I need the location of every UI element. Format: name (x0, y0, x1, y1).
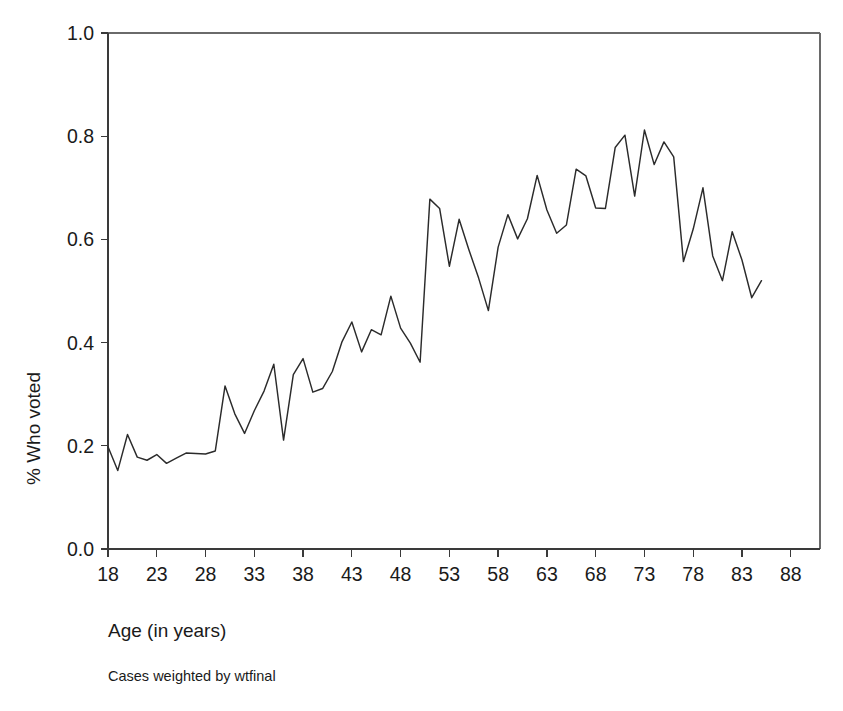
x-tick-label: 38 (292, 563, 314, 585)
y-tick-label: 0.4 (67, 332, 94, 354)
plot-frame (108, 33, 820, 549)
x-tick-label: 63 (536, 563, 558, 585)
chart-figure: 0.00.20.40.60.81.0 182328333843485358636… (0, 0, 843, 711)
x-tick-label: 53 (439, 563, 461, 585)
y-axis-ticks: 0.00.20.40.60.81.0 (67, 22, 108, 560)
y-tick-label: 0.6 (67, 228, 94, 250)
x-tick-label: 23 (146, 563, 168, 585)
x-tick-label: 68 (585, 563, 607, 585)
y-tick-label: 0.0 (67, 538, 94, 560)
x-tick-label: 33 (243, 563, 265, 585)
x-tick-label: 28 (195, 563, 217, 585)
x-tick-label: 73 (634, 563, 656, 585)
x-tick-label: 48 (390, 563, 412, 585)
axes (108, 33, 820, 549)
x-axis-ticks: 182328333843485358636873788388 (97, 549, 801, 585)
x-tick-label: 88 (780, 563, 802, 585)
x-tick-label: 83 (731, 563, 753, 585)
y-axis-title: % Who voted (23, 372, 44, 485)
y-tick-label: 0.2 (67, 435, 94, 457)
data-line-who-voted (108, 130, 761, 471)
x-tick-label: 78 (682, 563, 704, 585)
x-axis-title: Age (in years) (108, 620, 226, 641)
x-tick-label: 18 (97, 563, 119, 585)
y-tick-label: 0.8 (67, 125, 94, 147)
y-tick-label: 1.0 (67, 22, 94, 44)
x-tick-label: 43 (341, 563, 363, 585)
chart-canvas: 0.00.20.40.60.81.0 182328333843485358636… (0, 0, 843, 711)
chart-footnote: Cases weighted by wtfinal (108, 668, 276, 684)
x-tick-label: 58 (487, 563, 509, 585)
